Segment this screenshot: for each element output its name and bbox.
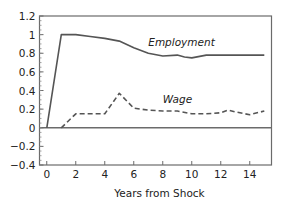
- x-tick-label: 2: [72, 168, 79, 180]
- x-axis-title: Years from Shock: [113, 187, 205, 199]
- y-tick-label: −0.2: [10, 140, 36, 152]
- y-tick-label: 0.8: [19, 47, 36, 59]
- x-tick-label: 0: [43, 168, 50, 180]
- x-axis: 02468101214: [43, 161, 256, 180]
- x-tick-label: 10: [185, 168, 198, 180]
- x-tick-label: 14: [243, 168, 257, 180]
- series-line-employment: [47, 35, 264, 128]
- y-tick-label: 1.2: [19, 10, 36, 22]
- x-tick-label: 4: [101, 168, 108, 180]
- series-layer: [47, 35, 264, 128]
- y-tick-label: 0.4: [19, 85, 36, 97]
- y-tick-label: 0.2: [19, 103, 36, 115]
- series-label-employment: Employment: [148, 36, 215, 48]
- y-tick-label: 0.6: [19, 66, 36, 78]
- y-tick-label: 1: [29, 29, 36, 41]
- x-tick-label: 8: [159, 168, 166, 180]
- x-tick-label: 6: [130, 168, 137, 180]
- series-label-wage: Wage: [163, 93, 192, 105]
- x-tick-label: 12: [214, 168, 227, 180]
- y-axis: 1.210.80.60.40.20−0.2−0.4: [10, 10, 44, 171]
- y-tick-label: 0: [29, 122, 36, 134]
- y-tick-label: −0.4: [10, 159, 36, 171]
- line-chart: 1.210.80.60.40.20−0.2−0.4 02468101214 Ye…: [0, 0, 285, 202]
